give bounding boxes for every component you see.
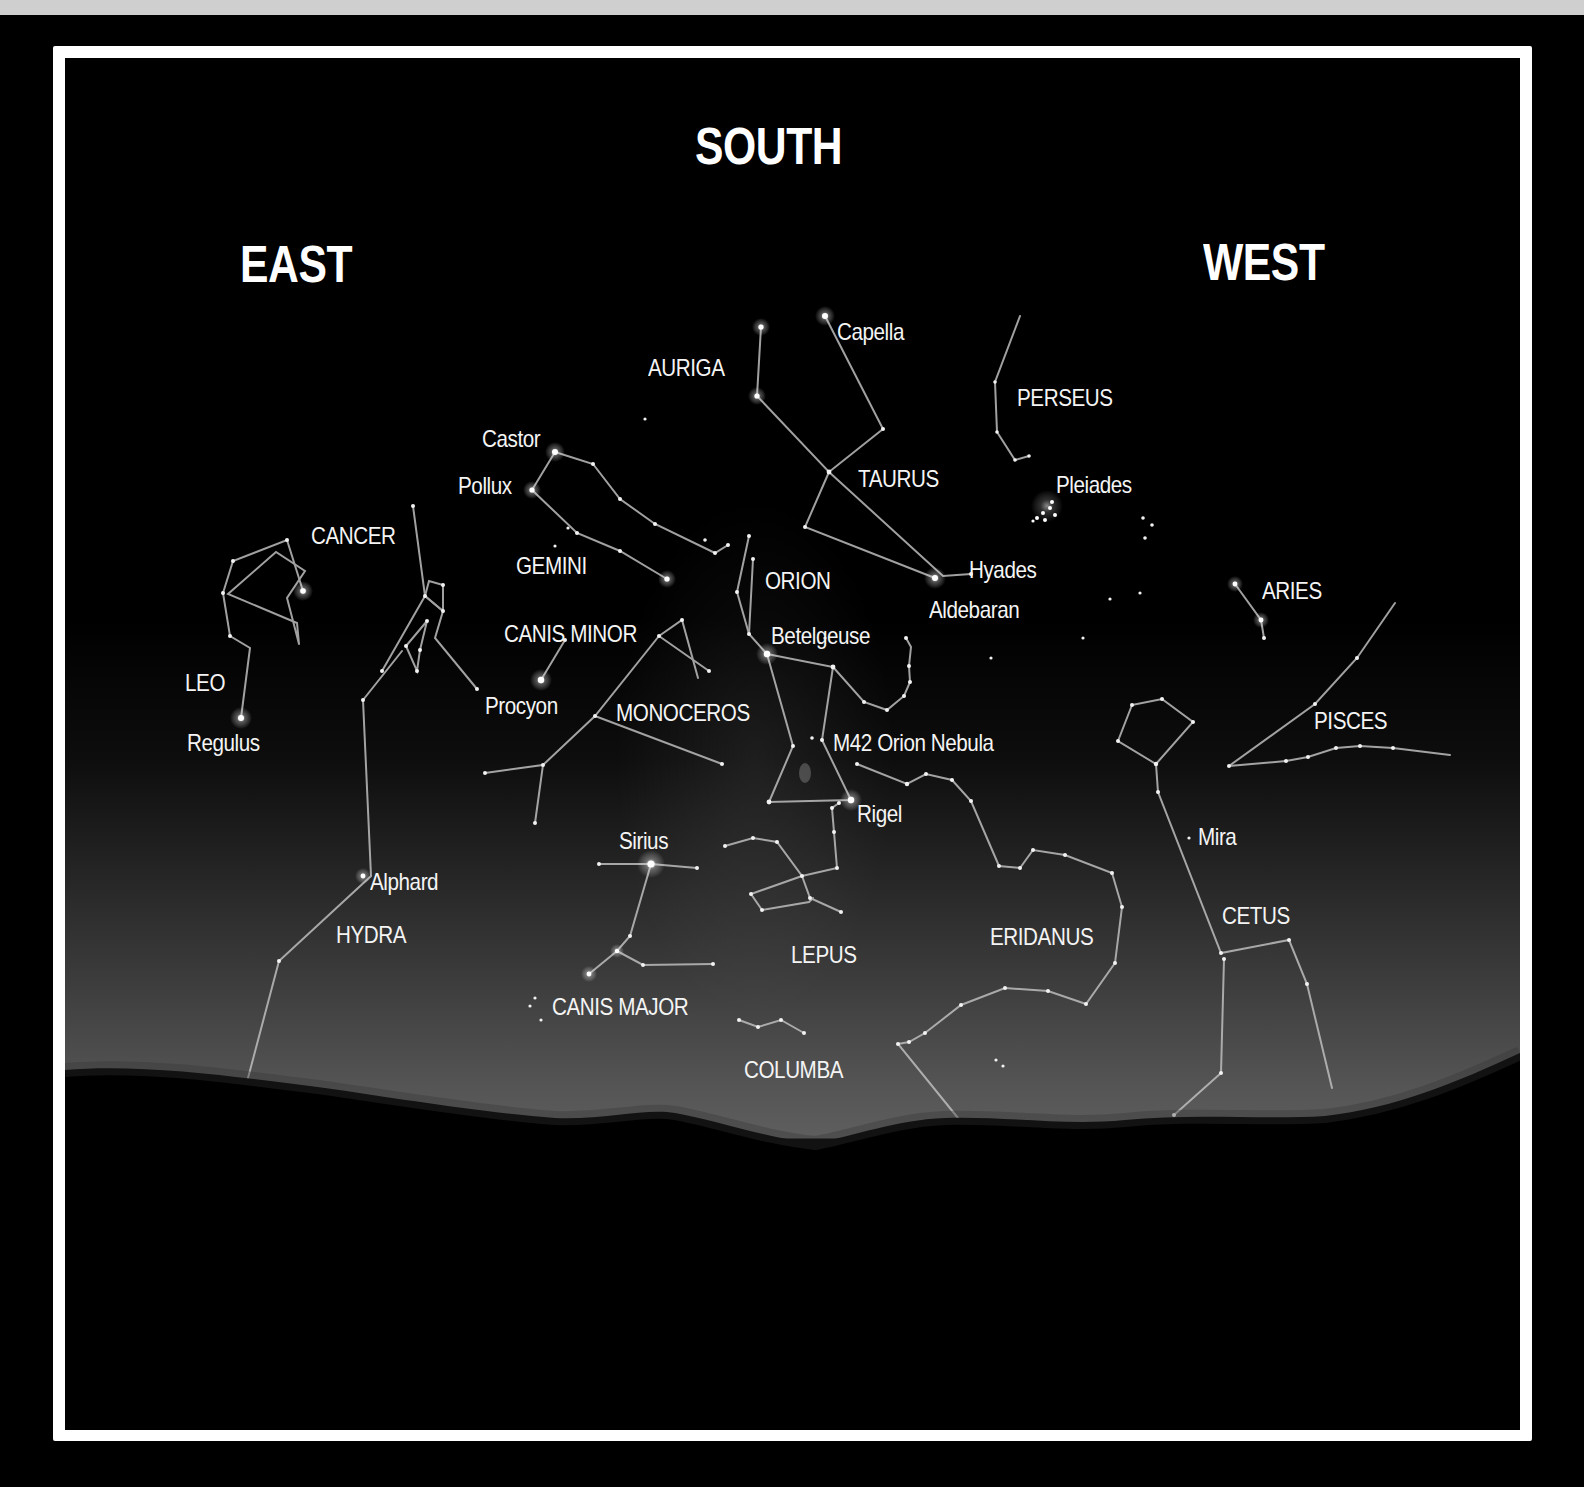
star-chart-frame: SOUTH EAST WEST AURIGA PERSEUS TAURUS GE… xyxy=(53,46,1532,1441)
label-procyon: Procyon xyxy=(485,694,558,718)
cetus-head xyxy=(1118,699,1193,764)
label-mira: Mira xyxy=(1198,825,1236,849)
label-orion: ORION xyxy=(765,569,831,593)
aries-lines xyxy=(1235,584,1264,638)
page-top-strip xyxy=(0,0,1584,15)
pisces-line-1 xyxy=(1229,603,1395,766)
label-pleiades: Pleiades xyxy=(1056,473,1132,497)
label-monoceros: MONOCEROS xyxy=(616,701,750,725)
cancer-line-1 xyxy=(413,506,477,689)
direction-east: EAST xyxy=(240,238,352,290)
label-castor: Castor xyxy=(482,427,540,451)
label-aldebaran: Aldebaran xyxy=(929,598,1019,622)
hydra-head xyxy=(406,621,427,671)
label-m42-orion-nebula: M42 Orion Nebula xyxy=(833,731,994,755)
label-regulus: Regulus xyxy=(187,731,260,755)
leo-body xyxy=(228,552,305,644)
cancer-box xyxy=(425,581,443,611)
label-aries: ARIES xyxy=(1262,579,1322,603)
label-pollux: Pollux xyxy=(458,474,512,498)
hydra-body xyxy=(248,651,402,1078)
label-columba: COLUMBA xyxy=(744,1058,843,1082)
leo-sickle xyxy=(223,540,303,718)
label-canis-major: CANIS MAJOR xyxy=(552,995,688,1019)
label-auriga: AURIGA xyxy=(648,356,725,380)
label-sirius: Sirius xyxy=(619,829,668,853)
monoceros-line-1 xyxy=(485,765,543,823)
label-leo: LEO xyxy=(185,671,225,695)
direction-west: WEST xyxy=(1203,236,1325,288)
label-gemini: GEMINI xyxy=(516,554,587,578)
label-betelgeuse: Betelgeuse xyxy=(771,624,870,648)
label-eridanus: ERIDANUS xyxy=(990,925,1093,949)
label-taurus: TAURUS xyxy=(858,467,939,491)
label-perseus: PERSEUS xyxy=(1017,386,1113,410)
label-lepus: LEPUS xyxy=(791,943,857,967)
columba-lines xyxy=(739,1020,804,1033)
milky-way-haze xyxy=(615,498,895,1018)
label-capella: Capella xyxy=(837,320,904,344)
label-canis-minor: CANIS MINOR xyxy=(504,622,637,646)
label-rigel: Rigel xyxy=(857,802,902,826)
direction-south: SOUTH xyxy=(695,120,842,172)
label-hyades: Hyades xyxy=(969,558,1036,582)
label-cancer: CANCER xyxy=(311,524,396,548)
label-cetus: CETUS xyxy=(1222,904,1290,928)
label-hydra: HYDRA xyxy=(336,923,406,947)
pisces-line-2 xyxy=(1229,746,1450,766)
mountain-silhouette xyxy=(65,1053,1520,1430)
cetus-tail xyxy=(1174,959,1224,1115)
label-pisces: PISCES xyxy=(1314,709,1387,733)
night-sky: SOUTH EAST WEST AURIGA PERSEUS TAURUS GE… xyxy=(65,58,1520,1430)
label-alphard: Alphard xyxy=(370,870,438,894)
